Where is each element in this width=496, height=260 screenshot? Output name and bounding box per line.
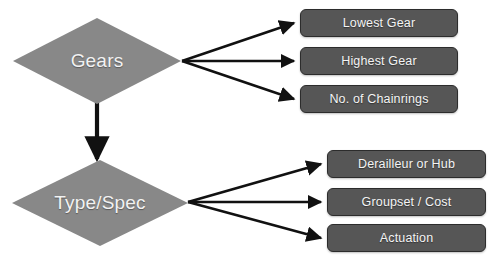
flowchart-canvas: Gears Type/Spec Lowest Gear Highest Gear… — [0, 0, 496, 260]
node-derailleur-or-hub[interactable]: Derailleur or Hub — [327, 150, 486, 178]
node-derailleur-or-hub-label: Derailleur or Hub — [358, 157, 455, 171]
node-type-spec-label: Type/Spec — [54, 192, 146, 214]
node-actuation-label: Actuation — [380, 231, 433, 245]
node-chainrings-label: No. of Chainrings — [329, 92, 428, 106]
node-type-spec[interactable]: Type/Spec — [12, 160, 188, 246]
node-gears[interactable]: Gears — [13, 18, 181, 104]
node-groupset-cost[interactable]: Groupset / Cost — [327, 188, 486, 216]
node-groupset-cost-label: Groupset / Cost — [362, 195, 452, 209]
edge-type-spec-to-derailleur — [188, 164, 321, 202]
node-chainrings[interactable]: No. of Chainrings — [300, 85, 458, 113]
node-gears-label: Gears — [71, 50, 124, 72]
edge-gears-to-lowest-gear — [182, 23, 294, 61]
node-highest-gear-label: Highest Gear — [341, 54, 416, 68]
node-highest-gear[interactable]: Highest Gear — [300, 47, 458, 75]
edge-gears-to-chainrings — [182, 61, 294, 99]
node-lowest-gear-label: Lowest Gear — [343, 16, 416, 30]
node-lowest-gear[interactable]: Lowest Gear — [300, 9, 458, 37]
node-actuation[interactable]: Actuation — [327, 224, 486, 252]
edge-type-spec-to-actuation — [188, 202, 321, 238]
